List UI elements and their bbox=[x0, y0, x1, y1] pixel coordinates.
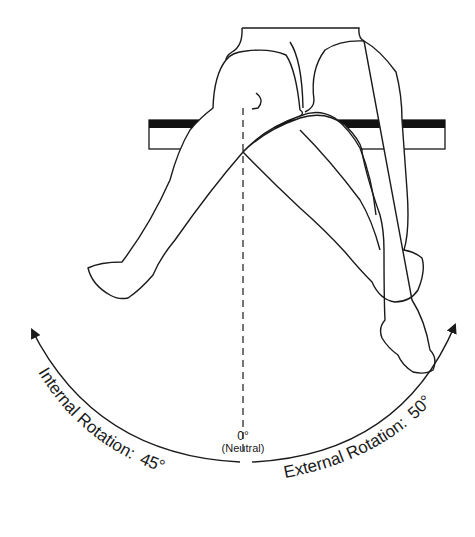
internal-rotation-label: Internal Rotation:45° bbox=[35, 364, 168, 476]
neutral-label: (Neutral) bbox=[222, 442, 265, 454]
external-rotation-label: External Rotation:50° bbox=[282, 392, 435, 482]
hip-rotation-diagram: 0° (Neutral) Internal Rotation:45° Exter… bbox=[0, 0, 475, 537]
neutral-degree-label: 0° bbox=[237, 429, 249, 443]
